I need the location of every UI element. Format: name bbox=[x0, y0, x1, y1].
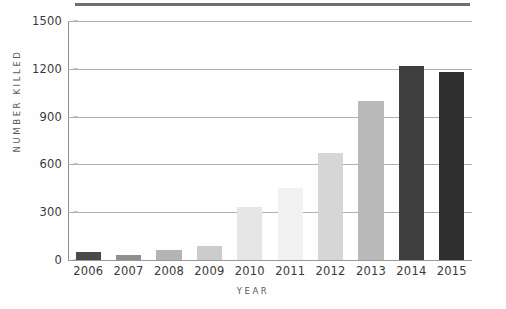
x-tick-label-2014: 2014 bbox=[391, 264, 431, 278]
bar-2012[interactable] bbox=[318, 153, 343, 260]
x-axis-title: YEAR bbox=[0, 286, 506, 296]
x-tick-label-2006: 2006 bbox=[68, 264, 108, 278]
x-tick-label-2015: 2015 bbox=[432, 264, 472, 278]
bar-2009[interactable] bbox=[197, 246, 222, 260]
x-tick-label-2012: 2012 bbox=[310, 264, 350, 278]
bar-2014[interactable] bbox=[399, 66, 424, 260]
gridline-1500 bbox=[68, 21, 472, 22]
bar-chart-figure: 030060090012001500 NUMBER KILLED 2006200… bbox=[0, 0, 506, 309]
x-tick-label-2011: 2011 bbox=[270, 264, 310, 278]
bar-2008[interactable] bbox=[156, 250, 181, 260]
bar-2013[interactable] bbox=[358, 101, 383, 260]
y-tick-label-1200: 1200 bbox=[16, 62, 62, 76]
gridline-0 bbox=[68, 260, 472, 261]
y-tick-label-600: 600 bbox=[16, 157, 62, 171]
bar-2006[interactable] bbox=[76, 252, 101, 260]
bar-2007[interactable] bbox=[116, 255, 141, 260]
x-tick-label-2010: 2010 bbox=[230, 264, 270, 278]
top-horizontal-rule bbox=[75, 3, 470, 6]
x-tick-label-2008: 2008 bbox=[149, 264, 189, 278]
y-tick-label-1500: 1500 bbox=[16, 14, 62, 28]
y-tick-label-300: 300 bbox=[16, 205, 62, 219]
bar-2011[interactable] bbox=[278, 188, 303, 260]
y-axis-title: NUMBER KILLED bbox=[12, 36, 22, 166]
x-tick-label-2013: 2013 bbox=[351, 264, 391, 278]
x-axis-tick-labels: 2006200720082009201020112012201320142015 bbox=[68, 264, 472, 282]
bar-2015[interactable] bbox=[439, 72, 464, 260]
x-tick-label-2007: 2007 bbox=[108, 264, 148, 278]
y-tick-label-0: 0 bbox=[16, 253, 62, 267]
bar-2010[interactable] bbox=[237, 207, 262, 260]
y-tick-label-900: 900 bbox=[16, 110, 62, 124]
x-tick-label-2009: 2009 bbox=[189, 264, 229, 278]
plot-area bbox=[68, 21, 472, 260]
